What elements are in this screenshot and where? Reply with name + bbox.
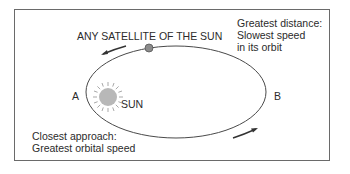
aphelion-note: Greatest distance: Slowest speed in its … xyxy=(237,17,322,53)
aphelion-note-line: in its orbit xyxy=(237,41,322,53)
point-b-label: B xyxy=(274,90,281,102)
aphelion-note-line: Slowest speed xyxy=(237,29,322,41)
perihelion-note-line: Greatest orbital speed xyxy=(32,142,135,154)
diagram-title: ANY SATELLITE OF THE SUN xyxy=(77,30,222,42)
perihelion-note-line: Closest approach: xyxy=(32,130,135,142)
aphelion-note-line: Greatest distance: xyxy=(237,17,322,29)
sun-label: SUN xyxy=(121,98,143,110)
direction-arrow-top-icon xyxy=(101,46,126,55)
sun-icon xyxy=(93,82,123,112)
direction-arrow-bottom-icon xyxy=(233,128,258,138)
perihelion-note: Closest approach: Greatest orbital speed xyxy=(32,130,135,154)
point-a-label: A xyxy=(72,90,79,102)
satellite-icon xyxy=(145,44,153,52)
